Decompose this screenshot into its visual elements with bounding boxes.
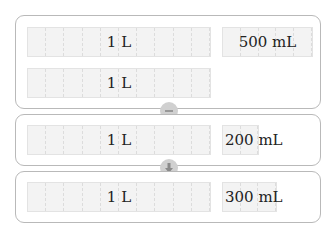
bar-1l-b: 1 L <box>27 68 211 98</box>
bar-label: 500 mL <box>223 28 312 56</box>
bar-label: 1 L <box>28 126 210 154</box>
bar-label: 300 mL <box>223 183 276 211</box>
bar-300ml: 300 mL <box>222 182 277 212</box>
bar-1l: 1 L <box>27 125 211 155</box>
panel-initial-volume: 1 L 500 mL 1 L <box>15 15 321 109</box>
bar-label: 1 L <box>28 69 210 97</box>
bar-label: 1 L <box>28 28 210 56</box>
bar-500ml: 500 mL <box>222 27 313 57</box>
bar-1l-a: 1 L <box>27 27 211 57</box>
bar-200ml: 200 mL <box>222 125 259 155</box>
bar-label: 1 L <box>28 183 210 211</box>
bar-label: 200 mL <box>223 126 258 154</box>
panel-result-volume: 1 L 300 mL <box>15 171 321 223</box>
bar-1l: 1 L <box>27 182 211 212</box>
